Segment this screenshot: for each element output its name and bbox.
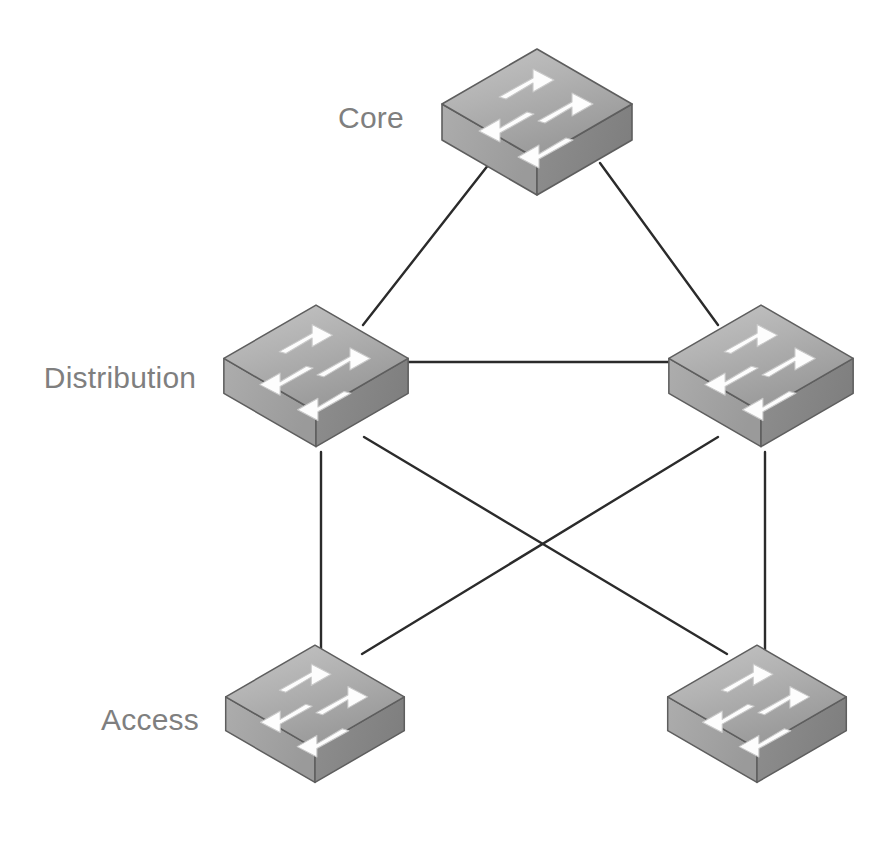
network-switch-icon-core-switch[interactable] <box>442 49 632 195</box>
network-link <box>363 164 489 325</box>
network-link <box>364 437 727 654</box>
bidirectional-switch-arrows-icon <box>224 305 408 447</box>
tier-label-core: Core <box>338 103 404 133</box>
network-topology-diagram: Core Distribution Access <box>0 0 893 842</box>
bidirectional-switch-arrows-icon <box>669 305 853 447</box>
bidirectional-switch-arrows-icon <box>442 49 632 195</box>
tier-label-distribution: Distribution <box>44 363 196 393</box>
nodes-layer <box>224 49 853 782</box>
bidirectional-switch-arrows-icon <box>226 645 405 782</box>
tier-label-access: Access <box>101 705 199 735</box>
network-switch-icon-dist-switch-right[interactable] <box>669 305 853 447</box>
network-link <box>600 163 718 325</box>
network-switch-icon-access-switch-right[interactable] <box>668 645 847 782</box>
network-link <box>362 437 718 654</box>
network-switch-icon-access-switch-left[interactable] <box>226 645 405 782</box>
bidirectional-switch-arrows-icon <box>668 645 847 782</box>
network-switch-icon-dist-switch-left[interactable] <box>224 305 408 447</box>
